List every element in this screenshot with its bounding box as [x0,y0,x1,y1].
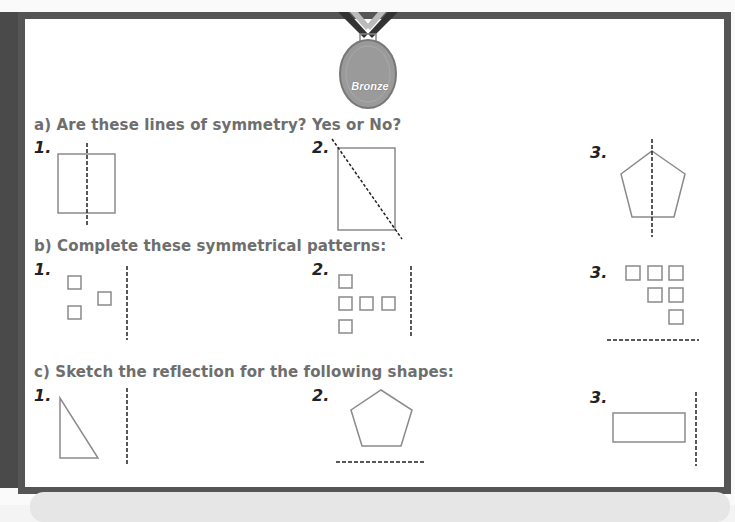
section-b-heading: b) Complete these symmetrical patterns: [34,237,386,255]
item-number: 2. [312,386,329,405]
item-number: 2. [312,138,329,157]
footer-bar [30,492,730,522]
t-squares-pattern [336,264,416,344]
item-number: 3. [590,388,607,407]
pentagon-with-horizontal-line [334,388,429,468]
item-number: 1. [34,386,51,405]
three-squares-pattern [66,264,136,344]
rectangle-with-vertical-line [610,390,700,470]
medal-label: Bronze [343,80,397,92]
item-number: 3. [590,143,607,162]
item-number: 1. [34,138,51,157]
section-a-heading: a) Are these lines of symmetry? Yes or N… [34,116,401,134]
pentagon-with-vertical-line [618,137,688,242]
rectangle-with-diagonal-line [330,137,410,247]
staircase-squares-pattern [605,264,705,346]
square-with-vertical-line [58,140,118,230]
bronze-medal-icon [330,12,406,112]
right-triangle-with-vertical-line [58,386,133,468]
item-number: 2. [312,260,329,279]
item-number: 1. [34,260,51,279]
section-c-heading: c) Sketch the reflection for the followi… [34,363,454,381]
